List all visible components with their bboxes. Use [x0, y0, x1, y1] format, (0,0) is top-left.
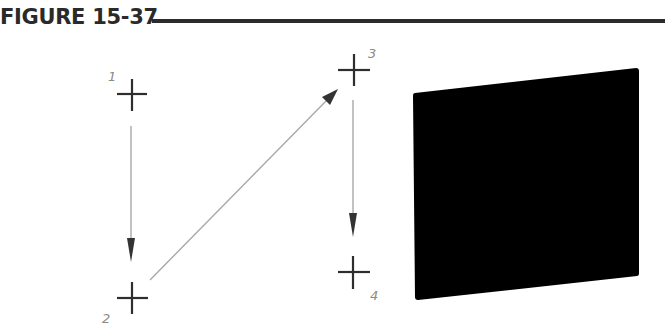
arrowhead-icon	[127, 238, 135, 262]
resulting-face	[413, 68, 639, 300]
arrow-3-to-4	[349, 100, 357, 237]
point-4	[338, 256, 370, 289]
arrowhead-icon	[349, 213, 357, 237]
point-3	[338, 54, 370, 86]
point-label-1: 1	[108, 69, 116, 84]
point-label-2: 2	[102, 311, 110, 326]
point-label-3: 3	[368, 46, 376, 61]
arrow-2-to-3	[150, 89, 338, 280]
point-label-4: 4	[370, 288, 378, 303]
point-1	[117, 79, 147, 111]
diagram-canvas: 1 2 3 4	[0, 0, 665, 326]
point-2	[117, 282, 148, 314]
arrow-1-to-2	[127, 126, 135, 262]
